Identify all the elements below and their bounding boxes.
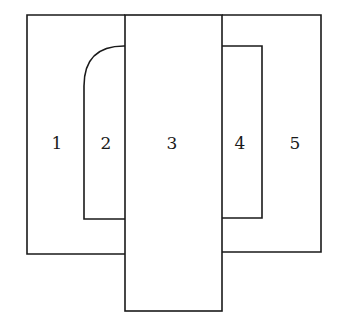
region-diagram: 1 2 3 4 5 [0,0,349,332]
region-2-label: 2 [101,133,112,153]
region-5-label: 5 [290,133,301,153]
region-4-label: 4 [235,133,246,153]
region-4-outline [222,46,262,218]
region-3-outline [125,15,222,311]
region-1-label: 1 [52,133,63,153]
region-3-label: 3 [167,133,178,153]
